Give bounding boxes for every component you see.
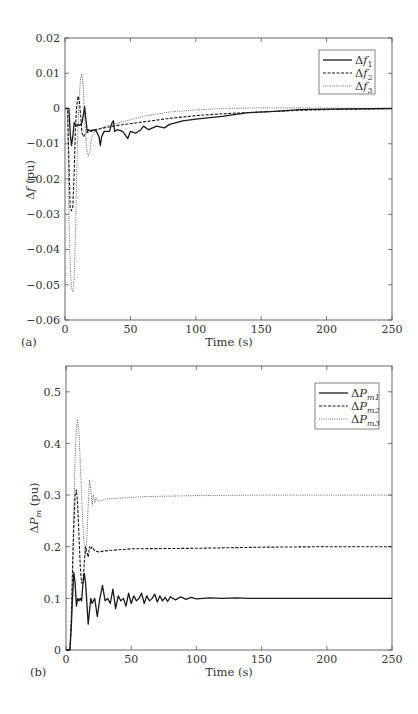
chart-b-plot-area xyxy=(66,420,392,650)
a-ytick-label: −0.06 xyxy=(26,314,60,327)
a-ytick-label: −0.04 xyxy=(26,243,60,256)
b-xtick-label: 200 xyxy=(316,653,337,666)
b-xtick-label: 50 xyxy=(124,653,138,666)
figure: 0.02 0.01 0 −0.01 −0.02 −0.03 −0.04 −0.0… xyxy=(0,0,418,714)
chart-a: 0.02 0.01 0 −0.01 −0.02 −0.03 −0.04 −0.0… xyxy=(21,32,403,349)
a-xtick-label: 250 xyxy=(382,323,403,336)
a-ytick-label: 0.02 xyxy=(36,32,61,45)
series-line-dashed xyxy=(65,96,392,211)
chart-a-plot-area xyxy=(65,74,392,292)
b-panel-label: (b) xyxy=(30,665,46,679)
a-ytick-label: −0.05 xyxy=(26,279,60,292)
a-xtick-label: 200 xyxy=(316,323,337,336)
b-ytick-label: 0.3 xyxy=(44,489,62,502)
series-line-solid xyxy=(66,573,392,651)
series-line-dotted xyxy=(65,74,392,292)
a-xtick-label: 50 xyxy=(123,323,137,336)
b-ytick-label: 0.1 xyxy=(44,593,62,606)
b-ytick-label: 0.2 xyxy=(44,541,62,554)
b-legend: ΔPm1 ΔPm2 ΔPm3 xyxy=(315,383,380,429)
a-ytick-label: −0.01 xyxy=(26,137,60,150)
series-line-dashed xyxy=(66,490,392,650)
a-xtick-label: 100 xyxy=(185,323,206,336)
chart-b: 0.5 0.4 0.3 0.2 0.1 0 0 50 100 150 200 2… xyxy=(27,366,403,679)
b-ytick-label: 0 xyxy=(54,644,61,657)
b-ytick-label: 0.4 xyxy=(44,438,62,451)
a-xaxis-label: Time (s) xyxy=(205,335,253,349)
b-xtick-label: 0 xyxy=(63,653,70,666)
a-xtick-label: 150 xyxy=(251,323,272,336)
a-ytick-label: −0.03 xyxy=(26,208,60,221)
b-ytick-label: 0.5 xyxy=(44,386,62,399)
series-line-dotted xyxy=(66,420,392,650)
b-xtick-label: 250 xyxy=(382,653,403,666)
a-panel-label: (a) xyxy=(21,335,37,349)
a-ytick-label: 0 xyxy=(53,102,60,115)
a-ytick-label: 0.01 xyxy=(36,67,61,80)
b-xtick-label: 100 xyxy=(186,653,207,666)
a-yaxis-label: Δf (pu) xyxy=(23,160,37,200)
b-xtick-label: 150 xyxy=(251,653,272,666)
a-xtick-label: 0 xyxy=(62,323,69,336)
series-line-solid xyxy=(65,107,392,146)
b-yaxis-label: ΔPm (pu) xyxy=(27,482,43,533)
b-xaxis-label: Time (s) xyxy=(205,665,253,679)
a-legend: Δf1 Δf2 Δf3 xyxy=(319,50,375,95)
